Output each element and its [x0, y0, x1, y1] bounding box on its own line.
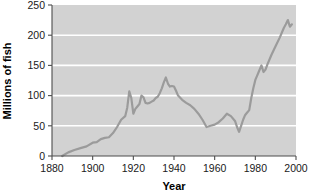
y-tick-label-250: 250 [27, 0, 45, 11]
y-tick-label-100: 100 [27, 89, 45, 101]
x-tick-label-1960: 1960 [203, 162, 227, 174]
x-tick-label-1900: 1900 [81, 162, 105, 174]
y-tick-label-0: 0 [39, 150, 45, 162]
chart-svg: 1880190019201940196019802000 05010015020… [0, 0, 311, 194]
fish-population-chart: 1880190019201940196019802000 05010015020… [0, 0, 311, 194]
x-tick-label-1980: 1980 [244, 162, 268, 174]
x-tick-label-1920: 1920 [122, 162, 146, 174]
x-axis-title: Year [162, 180, 186, 192]
y-axis-title: Millions of fish [1, 42, 13, 119]
x-tick-label-1940: 1940 [162, 162, 186, 174]
y-tick-label-200: 200 [27, 29, 45, 41]
plot-area-background [52, 5, 296, 156]
y-tick-label-50: 50 [33, 120, 45, 132]
x-tick-label-1880: 1880 [40, 162, 64, 174]
x-tick-label-2000: 2000 [284, 162, 308, 174]
y-tick-label-150: 150 [27, 59, 45, 71]
